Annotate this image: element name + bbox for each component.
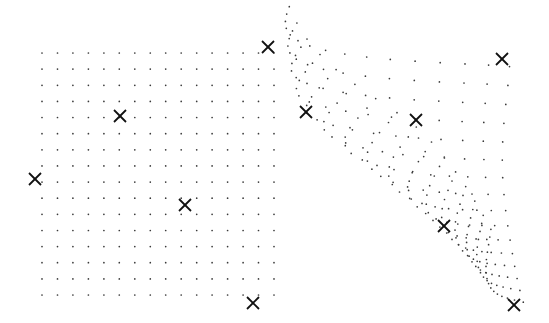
grid-dot — [41, 213, 43, 215]
grid-dot — [196, 278, 198, 280]
grid-dot — [258, 52, 260, 54]
x-mark-icon — [179, 199, 191, 211]
grid-dot — [149, 101, 151, 103]
grid-dot — [72, 68, 74, 70]
grid-dot — [273, 213, 275, 215]
warped-grid-dot — [402, 154, 404, 156]
warped-grid-dot — [456, 235, 458, 237]
grid-dot — [57, 52, 59, 54]
grid-dot — [165, 294, 167, 296]
grid-dot — [180, 149, 182, 151]
warped-grid-dot — [478, 267, 480, 269]
grid-dot — [258, 246, 260, 248]
grid-dot — [103, 181, 105, 183]
warped-grid-dot — [298, 80, 300, 82]
x-mark-icon — [247, 297, 259, 309]
warped-grid-dot — [458, 244, 460, 246]
warped-grid-dot — [490, 228, 492, 230]
grid-dot — [180, 133, 182, 135]
grid-dot — [88, 68, 90, 70]
warped-grid-dot — [389, 97, 391, 99]
warped-grid-dot — [466, 249, 468, 251]
warped-grid-dot — [389, 59, 391, 61]
warped-grid-dot — [287, 45, 289, 47]
grid-dot — [258, 149, 260, 151]
grid-dot — [72, 52, 74, 54]
warped-grid-dot — [344, 145, 346, 147]
warped-grid-dot — [331, 136, 333, 138]
grid-dot — [149, 262, 151, 264]
grid-dot — [227, 262, 229, 264]
grid-dot — [258, 84, 260, 86]
warped-grid-dot — [465, 186, 467, 188]
grid-dot — [180, 52, 182, 54]
warped-grid-dot — [344, 136, 346, 138]
grid-dot — [41, 181, 43, 183]
warped-grid-dot — [461, 121, 463, 123]
warped-grid-dot — [501, 295, 503, 297]
warped-grid-dot — [285, 27, 287, 29]
warped-grid-dot — [379, 132, 381, 134]
grid-dot — [165, 68, 167, 70]
warped-grid-dot — [501, 252, 503, 254]
warped-grid-dot — [367, 114, 369, 116]
warped-grid-dot — [292, 30, 294, 32]
grid-dot — [118, 246, 120, 248]
grid-dot — [211, 52, 213, 54]
warped-grid-dot — [483, 276, 485, 278]
grid-dot — [242, 246, 244, 248]
grid-dot — [211, 246, 213, 248]
warped-grid-dot — [323, 129, 325, 131]
warped-grid-dot — [312, 62, 314, 64]
grid-dot — [273, 246, 275, 248]
grid-dot — [273, 165, 275, 167]
grid-dot — [165, 230, 167, 232]
grid-dot — [134, 101, 136, 103]
warped-grid-dot — [399, 191, 401, 193]
warped-grid-dot — [438, 120, 440, 122]
grid-dot — [227, 149, 229, 151]
warped-grid-dot — [473, 249, 475, 251]
warped-grid-panel — [285, 6, 525, 311]
warped-grid-dot — [414, 60, 416, 62]
grid-dot — [196, 117, 198, 119]
warped-grid-dot — [412, 171, 414, 173]
grid-dot — [57, 101, 59, 103]
warped-grid-dot — [393, 156, 395, 158]
warped-grid-dot — [325, 49, 327, 51]
grid-dot — [88, 197, 90, 199]
warped-grid-dot — [366, 56, 368, 58]
grid-dot — [57, 149, 59, 151]
warped-grid-dot — [509, 66, 511, 68]
grid-dot — [242, 181, 244, 183]
warped-grid-dot — [306, 38, 308, 40]
grid-dot — [134, 197, 136, 199]
warped-grid-dot — [439, 62, 441, 64]
grid-dot — [72, 246, 74, 248]
warped-grid-dot — [491, 282, 493, 284]
grid-dot — [118, 149, 120, 151]
warped-grid-dot — [464, 158, 466, 160]
grid-dot — [165, 278, 167, 280]
warped-grid-dot — [409, 198, 411, 200]
warped-grid-dot — [285, 21, 287, 23]
grid-dot — [196, 262, 198, 264]
warped-grid-dot — [456, 212, 458, 214]
warped-grid-dot — [323, 68, 325, 70]
grid-dot — [72, 181, 74, 183]
grid-dot — [72, 197, 74, 199]
grid-dot — [180, 294, 182, 296]
warped-grid-dot — [418, 161, 420, 163]
warped-grid-dot — [286, 13, 288, 15]
grid-dot — [180, 197, 182, 199]
warped-grid-dot — [486, 278, 488, 280]
grid-dot — [227, 246, 229, 248]
grid-dot — [242, 165, 244, 167]
grid-dot — [134, 149, 136, 151]
warped-grid-dot — [463, 82, 465, 84]
warped-grid-dot — [462, 209, 464, 211]
x-mark-icon — [438, 220, 450, 232]
warped-grid-dot — [465, 237, 467, 239]
grid-dot — [41, 262, 43, 264]
grid-dot — [227, 278, 229, 280]
